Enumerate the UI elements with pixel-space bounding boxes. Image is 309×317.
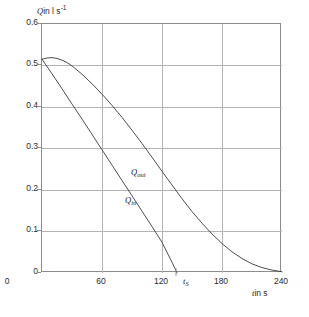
x-tick-label: 60 [86, 277, 116, 286]
annotation-q-in-subscript: in [131, 199, 136, 206]
x-axis-label: tin s [252, 288, 268, 298]
annotation-q-out: Qout [131, 168, 145, 177]
figure-caption [22, 305, 302, 316]
x-tick-label: 120 [146, 277, 176, 286]
annotation-ts-subscript: S [185, 280, 188, 287]
x-axis-unit: in s [254, 288, 267, 298]
x-tick-label: 240 [266, 277, 296, 286]
annotation-ts: tS [183, 277, 189, 286]
x-tick-label: 0 [0, 277, 22, 286]
x-tick-label: 180 [206, 277, 236, 286]
figure-container: Qin l s-1 0.6 0.5 0.4 0.3 0.2 0.1 0 [0, 0, 309, 317]
annotation-q-in: Qin [125, 196, 136, 205]
annotation-q-out-subscript: out [137, 171, 145, 178]
ts-marker-svg [0, 0, 309, 317]
